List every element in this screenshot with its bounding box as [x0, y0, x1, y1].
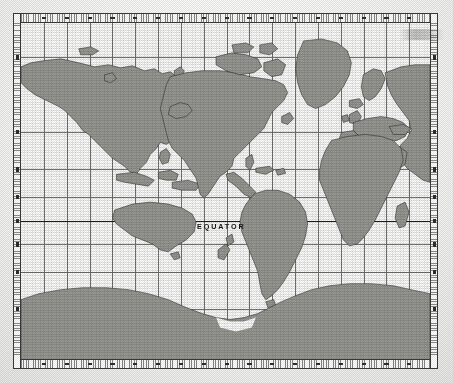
longitude-tick — [156, 363, 160, 366]
longitude-tick — [225, 363, 229, 366]
land-scandinavia — [361, 69, 385, 101]
land-australia — [113, 202, 197, 252]
landmass-layer — [21, 23, 430, 359]
land-cuba — [256, 166, 274, 174]
left-latitude-ruler — [14, 14, 21, 368]
world-map-page: EQUATOR — [0, 0, 453, 383]
longitude-tick — [293, 17, 297, 20]
latitude-tick — [433, 307, 436, 311]
longitude-tick — [88, 363, 92, 366]
longitude-tick — [225, 17, 229, 20]
latitude-tick — [16, 242, 19, 246]
map-canvas: EQUATOR — [21, 23, 430, 359]
latitude-tick — [16, 167, 19, 171]
longitude-tick — [339, 363, 343, 366]
top-longitude-ruler — [14, 14, 437, 23]
latitude-tick — [433, 242, 436, 246]
land-ireland — [341, 115, 349, 123]
latitude-tick — [433, 55, 436, 59]
longitude-tick — [156, 17, 160, 20]
land-arctic-isl-2 — [232, 43, 254, 53]
latitude-tick — [433, 270, 436, 274]
land-new-zealand-north — [226, 234, 234, 246]
longitude-tick — [384, 363, 388, 366]
land-baffin — [264, 59, 286, 77]
longitude-tick — [247, 17, 251, 20]
longitude-tick — [362, 17, 366, 20]
longitude-tick — [179, 363, 183, 366]
land-tasmania — [170, 252, 180, 260]
longitude-tick — [202, 17, 206, 20]
land-greenland — [296, 39, 352, 109]
latitude-tick — [16, 219, 19, 223]
map-frame: EQUATOR — [13, 13, 438, 369]
longitude-tick — [270, 363, 274, 366]
longitude-tick — [293, 363, 297, 366]
bottom-longitude-ruler — [14, 359, 437, 368]
longitude-tick — [65, 17, 69, 20]
longitude-tick — [202, 363, 206, 366]
latitude-tick — [16, 307, 19, 311]
longitude-tick — [133, 17, 137, 20]
latitude-tick — [16, 195, 19, 199]
latitude-tick — [16, 55, 19, 59]
longitude-tick — [270, 17, 274, 20]
longitude-tick — [362, 363, 366, 366]
land-hispaniola — [276, 168, 286, 175]
land-africa — [320, 134, 404, 245]
latitude-tick — [16, 130, 19, 134]
longitude-tick — [407, 363, 411, 366]
longitude-tick — [247, 363, 251, 366]
longitude-tick — [407, 17, 411, 20]
longitude-tick — [42, 363, 46, 366]
right-latitude-ruler — [430, 14, 437, 368]
latitude-tick — [433, 167, 436, 171]
longitude-tick — [316, 363, 320, 366]
land-arctic-islands-west — [79, 47, 99, 55]
land-indonesia-1 — [117, 172, 155, 186]
longitude-tick — [110, 363, 114, 366]
land-new-zealand-south — [218, 244, 230, 260]
latitude-tick — [433, 219, 436, 223]
land-indonesia-2 — [158, 170, 178, 180]
land-arctic-isl-3 — [260, 43, 278, 55]
land-north-america — [160, 71, 287, 198]
longitude-tick — [339, 17, 343, 20]
land-central-america — [226, 172, 256, 198]
land-black-sea-coast — [389, 125, 411, 135]
latitude-tick — [16, 270, 19, 274]
longitude-tick — [65, 363, 69, 366]
land-madagascar — [395, 202, 409, 228]
longitude-tick — [179, 17, 183, 20]
map-plot-area[interactable]: EQUATOR — [21, 23, 430, 359]
land-iceland — [349, 99, 363, 109]
land-newfoundland — [282, 113, 294, 125]
land-south-america — [240, 190, 308, 299]
longitude-tick — [384, 17, 388, 20]
longitude-tick — [316, 17, 320, 20]
land-florida — [246, 154, 254, 170]
land-philippines — [159, 148, 170, 164]
land-new-guinea — [172, 180, 200, 190]
longitude-tick — [133, 363, 137, 366]
longitude-tick — [42, 17, 46, 20]
longitude-tick — [88, 17, 92, 20]
longitude-tick — [110, 17, 114, 20]
equator-label: EQUATOR — [197, 222, 246, 231]
latitude-tick — [433, 195, 436, 199]
latitude-tick — [433, 130, 436, 134]
scan-smudge — [400, 29, 444, 40]
